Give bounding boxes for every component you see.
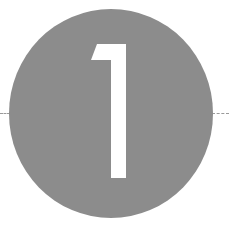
number-badge-graphic: 1 <box>0 0 229 231</box>
numeral-one-icon <box>0 0 229 231</box>
